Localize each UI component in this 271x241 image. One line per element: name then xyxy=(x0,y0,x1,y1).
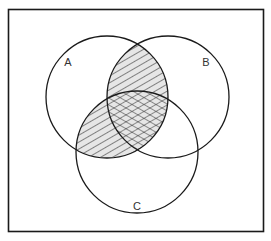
venn-diagram: A B C xyxy=(0,0,271,241)
set-c-label: C xyxy=(133,200,141,212)
set-b-label: B xyxy=(202,56,209,68)
set-a-label: A xyxy=(64,56,72,68)
